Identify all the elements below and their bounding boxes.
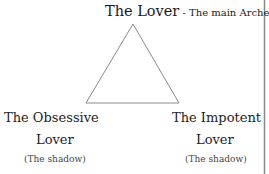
left-node-line1: The Obsessive [4, 110, 99, 125]
right-node-line2: Lover [196, 132, 234, 147]
top-node-subtitle: The main Archetype [189, 7, 269, 18]
top-node-title: The Lover [105, 3, 179, 19]
left-node-line2: Lover [36, 132, 74, 147]
diagram-canvas [0, 0, 269, 174]
top-node-separator: - [179, 7, 189, 18]
right-node-line1: The Impotent [172, 110, 261, 125]
right-node-note: (The shadow) [185, 154, 247, 164]
archetype-triangle [86, 24, 179, 103]
top-node-label: The Lover - The main Archetype [105, 3, 269, 19]
left-node-note: (The shadow) [24, 154, 86, 164]
